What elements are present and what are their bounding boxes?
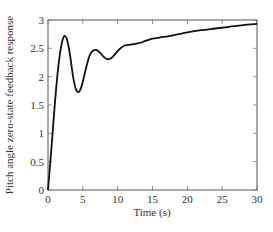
y-tick-label: 1.5: [30, 99, 44, 111]
response-line: [48, 24, 257, 190]
x-tick-label: 0: [45, 193, 51, 205]
y-tick-label: 3: [39, 14, 45, 26]
x-tick-label: 20: [182, 193, 194, 205]
y-tick-label: 0.5: [30, 156, 44, 168]
y-tick-label: 2: [39, 71, 45, 83]
y-tick-label: 0: [39, 184, 45, 196]
y-tick-label: 1: [39, 127, 45, 139]
x-axis-label: Time (s): [133, 206, 171, 219]
data-series: [48, 24, 257, 190]
plot-frame: [48, 20, 257, 190]
x-tick-label: 25: [217, 193, 229, 205]
plot-area-border: [48, 20, 257, 190]
x-tick-label: 10: [112, 193, 124, 205]
x-tick-label: 15: [147, 193, 159, 205]
x-axis-ticks: 051015202530: [45, 20, 263, 205]
y-tick-label: 2.5: [30, 42, 44, 54]
x-tick-label: 5: [80, 193, 86, 205]
chart: 051015202530 00.511.522.53 Time (s) Pitc…: [0, 0, 273, 232]
y-axis-label: Pitch angle zero-state feedback response: [3, 16, 15, 194]
x-tick-label: 30: [252, 193, 264, 205]
